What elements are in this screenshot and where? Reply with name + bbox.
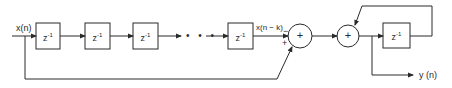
tap-label: x(n − k) [256,24,283,32]
delay-block-3: z-1 [133,32,158,43]
delay-exp: -1 [240,32,245,38]
delay-block-1: z-1 [36,32,60,43]
delay-exp: -1 [145,32,150,38]
delay-exp: -1 [48,32,53,38]
summer-1: + [288,30,312,41]
diagram-wires [0,0,452,88]
ellipsis: • • • [186,31,217,41]
delay-exp: -1 [396,31,401,37]
delay-block-k: z-1 [228,32,253,43]
input-label: x(n) [16,24,32,33]
delay-block-2: z-1 [85,32,110,43]
feedback-delay-block: z-1 [383,31,410,42]
plus-sign: + [282,39,287,48]
output-label: y (n) [419,71,437,80]
delay-exp: -1 [97,32,102,38]
summer-2: + [337,30,359,41]
